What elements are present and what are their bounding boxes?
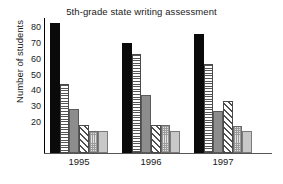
y-tick-label: 50 [31,70,41,80]
bar [170,131,180,153]
x-tick-label: 1997 [212,156,233,167]
bar [161,125,171,153]
x-tick-label: 1995 [68,156,89,167]
bar [242,131,252,153]
y-tick-label: 40 [31,85,41,95]
bar [141,95,151,153]
x-tick-label: 1996 [140,156,161,167]
bar-group [122,18,180,153]
bar [204,64,214,153]
y-tick-label: 60 [31,54,41,64]
bar-group [194,18,252,153]
bar [132,54,142,153]
bar [60,84,70,153]
bar [213,111,223,153]
bar [122,43,132,153]
bar-chart: 5th-grade state writing assessment Numbe… [0,0,283,184]
bar [223,101,233,153]
x-axis-line [44,153,272,154]
bar [233,126,243,153]
chart-title: 5th-grade state writing assessment [0,6,283,17]
bar [89,131,99,153]
y-tick-label: 30 [31,101,41,111]
bar [98,131,108,153]
bar-group [50,18,108,153]
bar [69,109,79,153]
bar [79,125,89,153]
y-axis-label: Number of students [14,2,25,122]
bar [50,23,60,153]
y-tick-label: 80 [31,22,41,32]
bar [194,34,204,153]
plot-area: 20304050607080 199519961997 [44,18,272,153]
bar [151,125,161,153]
y-tick-label: 70 [31,38,41,48]
y-tick-label: 20 [31,117,41,127]
y-axis-line [44,18,45,153]
